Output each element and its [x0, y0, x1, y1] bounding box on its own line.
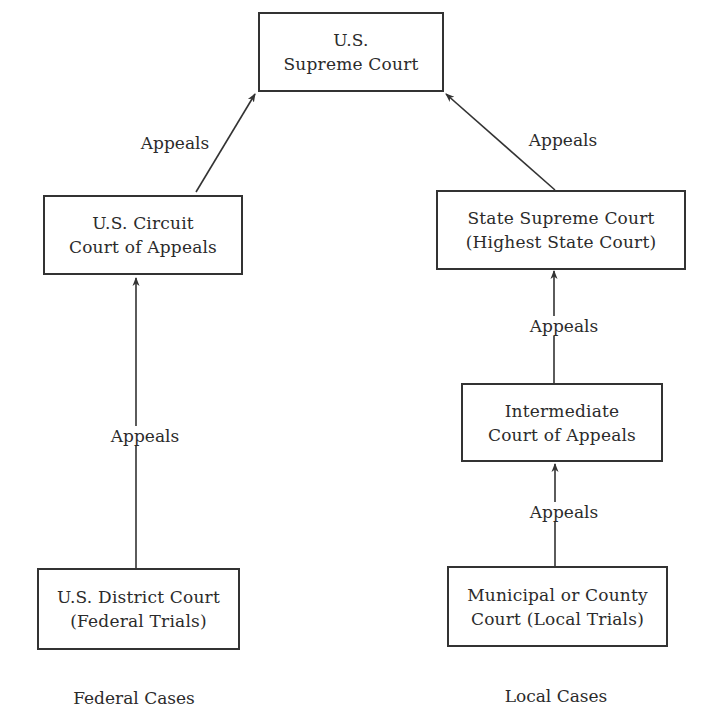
column-label-federal-cases: Federal Cases — [73, 688, 195, 708]
node-circuit-line1: U.S. Circuit — [92, 211, 194, 235]
node-intermediate-court-of-appeals: Intermediate Court of Appeals — [461, 383, 663, 462]
edge-label-circuit-to-supreme: Appeals — [139, 133, 211, 153]
edge-label-state-supreme-to-supreme: Appeals — [527, 130, 599, 150]
node-us-supreme-court: U.S. Supreme Court — [258, 12, 444, 92]
node-state-supreme-court: State Supreme Court (Highest State Court… — [436, 190, 686, 270]
node-circuit-line2: Court of Appeals — [69, 235, 217, 259]
node-intermediate-line2: Court of Appeals — [488, 423, 636, 447]
node-district-line2: (Federal Trials) — [70, 609, 207, 633]
node-us-district-court: U.S. District Court (Federal Trials) — [37, 568, 240, 650]
node-municipal-line1: Municipal or County — [467, 583, 648, 607]
node-us-circuit-court-of-appeals: U.S. Circuit Court of Appeals — [43, 195, 243, 275]
node-district-line1: U.S. District Court — [57, 585, 220, 609]
court-appeals-diagram: U.S. Supreme Court U.S. Circuit Court of… — [0, 0, 705, 714]
node-municipal-or-county-court: Municipal or County Court (Local Trials) — [447, 566, 668, 647]
edge-label-municipal-to-intermediate: Appeals — [528, 502, 600, 522]
node-municipal-line2: Court (Local Trials) — [471, 607, 644, 631]
node-us-supreme-court-line2: Supreme Court — [284, 52, 419, 76]
node-state-supreme-line2: (Highest State Court) — [466, 230, 657, 254]
node-intermediate-line1: Intermediate — [505, 399, 620, 423]
edge-label-district-to-circuit: Appeals — [109, 426, 181, 446]
edge-label-intermediate-to-state-supreme: Appeals — [528, 316, 600, 336]
column-label-local-cases: Local Cases — [505, 686, 608, 706]
node-us-supreme-court-line1: U.S. — [333, 28, 368, 52]
node-state-supreme-line1: State Supreme Court — [467, 206, 654, 230]
